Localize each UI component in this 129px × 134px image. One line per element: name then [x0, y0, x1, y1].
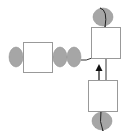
left-ellipse: [9, 47, 23, 67]
left-box: [24, 43, 53, 73]
bottom-right-box: [89, 81, 118, 112]
middle-ellipse-1: [53, 47, 67, 67]
top-ellipse: [93, 8, 113, 26]
diagram-canvas: [0, 0, 129, 134]
middle-ellipse-2: [67, 47, 81, 67]
top-right-box: [92, 28, 121, 59]
